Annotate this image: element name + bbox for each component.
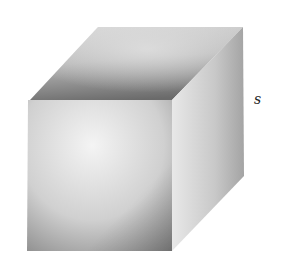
side-length-label: s [254,91,261,107]
cube-diagram [0,0,282,278]
cube-front-face-shade [27,100,172,251]
